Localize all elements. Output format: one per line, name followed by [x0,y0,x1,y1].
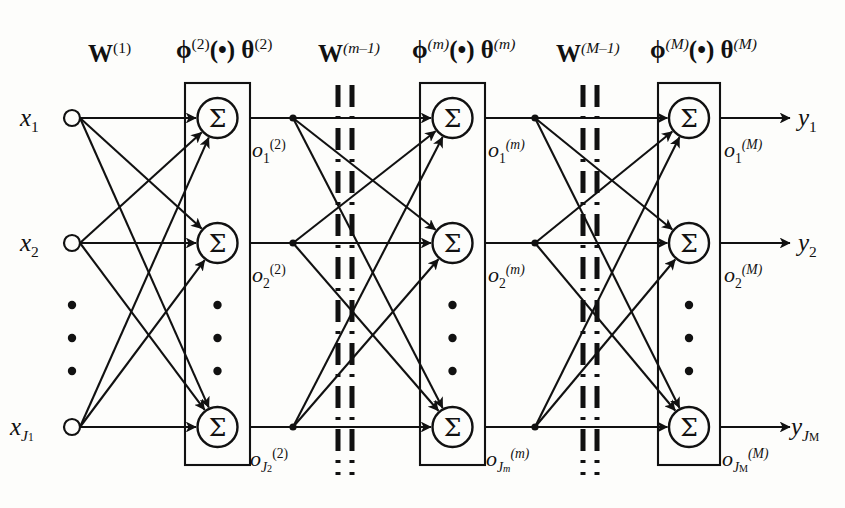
ellipsis-dot-c2-3 [213,367,221,375]
ellipsis-dot-c4-1 [685,301,693,309]
lMo3-base: o [722,446,733,471]
l2o2-sup: (2) [270,262,286,277]
ellipsis-dot-c4-3 [685,367,693,375]
ellipsis-dot-c1-3 [68,367,76,375]
phi-symbol-2: ϕ [412,36,428,63]
input-label-3-sub2: 1 [28,431,34,443]
sigma-glyph: Σ [444,413,462,442]
output-label-3: yJM [791,414,819,444]
neuron-L3-2: Σ [669,223,709,263]
sigma-glyph: Σ [444,104,462,133]
l2o2-base: o [252,262,263,287]
ellipsis-dot-c3-3 [448,367,456,375]
neuron-L3-1: Σ [669,98,709,138]
input-label-1: x1 [20,105,39,135]
network-svg: ΣΣΣΣΣΣΣΣΣ [0,0,845,508]
activation-label-3: ϕ(M)(•) θ(M) [650,36,757,62]
lmo1-sup: (m) [506,137,525,152]
lMo2-sup: (M) [742,262,762,277]
lMo2-sub: 2 [735,276,742,291]
edge-input3-to-n2-1 [80,138,209,427]
neuron-L1-3: Σ [198,407,238,447]
lmo3-sup: (m) [510,446,529,461]
lMo3-sup: (M) [748,446,768,461]
l2o1-base: o [252,137,263,162]
ellipsis-dot-c1-2 [68,334,76,342]
input-label-1-sub: 1 [31,118,39,135]
lmo2-base: o [488,262,499,287]
lmo1-base: o [488,137,499,162]
neuron-L2-1: Σ [433,98,473,138]
connection-edges [80,114,790,430]
l2o1-sup: (2) [270,137,286,152]
layer2-output-label-2: o2(2) [252,263,286,290]
l2o3-sup: (2) [272,446,288,461]
output-label-3-base: y [791,413,802,440]
lMo3-sub2: M [739,463,748,474]
phi-dot-1: (•) [210,36,235,63]
phi-sup-1: (2) [192,35,210,52]
layerM-output-label-2: o2(M) [724,263,762,290]
phi-symbol-3: ϕ [650,36,666,63]
weight-label-1: W(1) [88,40,131,66]
output-label-3-sub2: M [809,431,819,443]
theta-symbol-3: θ [721,36,734,63]
phi-sup-2: (m) [428,35,450,52]
weight-label-3-base: W [556,40,581,67]
output-label-1-base: y [798,104,809,131]
input-label-3: xJ1 [10,414,34,444]
sigma-glyph: Σ [680,104,698,133]
sigma-glyph: Σ [209,229,227,258]
input-label-3-base: x [10,413,21,440]
neural-network-figure: ΣΣΣΣΣΣΣΣΣ W(1) W(m–1) W(M–1) ϕ(2)(•) θ(2… [0,0,845,508]
ellipsis-dot-c3-2 [448,334,456,342]
output-label-3-sub: J [802,427,809,444]
edge-input1-to-n2-2 [80,118,202,229]
weight-label-2-sup: (m–1) [343,39,380,56]
phi-symbol-1: ϕ [176,36,192,63]
l2o2-sub: 2 [263,276,270,291]
neuron-L2-3: Σ [433,407,473,447]
theta-sup-1: (2) [254,35,272,52]
neuron-L1-2: Σ [198,223,238,263]
sigma-glyph: Σ [680,413,698,442]
input-node-3 [64,419,80,435]
input-label-1-base: x [20,104,31,131]
edge-l2-1-to-lm-2 [293,118,436,230]
input-node-2 [64,235,80,251]
input-node-1 [64,110,80,126]
output-label-2-base: y [798,229,809,256]
lmo3-sub2: m [503,463,510,474]
theta-symbol-1: θ [241,36,254,63]
edge-lm-2-to-lM-1 [535,132,672,243]
lmo2-sup: (m) [506,262,525,277]
theta-sup-2: (m) [494,35,516,52]
input-label-2-base: x [20,229,31,256]
input-label-2: x2 [20,230,39,260]
sigma-glyph: Σ [209,413,227,442]
input-label-2-sub: 2 [31,243,39,260]
ellipsis-dot-c2-1 [213,301,221,309]
edge-lm-1-to-lM-2 [535,118,672,229]
lMo1-sub: 1 [735,151,742,166]
l2o3-sub2: 2 [267,463,272,474]
neuron-L3-3: Σ [669,407,709,447]
weight-label-3-sup: (M–1) [581,39,620,56]
ellipsis-dot-c4-2 [685,334,693,342]
neuron-L1-1: Σ [198,98,238,138]
theta-sup-3: (M) [734,35,757,52]
l2o1-sub: 1 [263,151,270,166]
ellipsis-dot-c1-1 [68,301,76,309]
weight-label-2-base: W [318,40,343,67]
lMo1-base: o [724,137,735,162]
lMo2-base: o [724,262,735,287]
weight-label-2: W(m–1) [318,40,380,66]
layerm-output-label-3: oJm(m) [486,447,529,474]
activation-label-2: ϕ(m)(•) θ(m) [412,36,515,62]
lmo3-base: o [486,446,497,471]
ellipsis-dot-c2-2 [213,334,221,342]
edge-input1-to-n2-3 [80,118,209,407]
weight-label-1-base: W [88,40,113,67]
neuron-L2-2: Σ [433,223,473,263]
sigma-glyph: Σ [680,229,698,258]
